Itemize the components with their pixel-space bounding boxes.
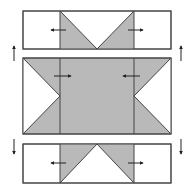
- top-strip: [23, 11, 171, 49]
- bottom-strip: [23, 144, 171, 183]
- middle-block: [23, 58, 171, 134]
- quilt-assembly-diagram: [0, 0, 194, 190]
